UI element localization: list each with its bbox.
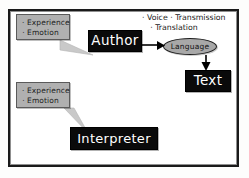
arrow-language-to-text [202,55,211,71]
diagram-canvas: · Voice · Transmission · Translation · E… [0,0,249,178]
arrow-author-to-language [142,41,165,50]
arrows-layer [0,0,249,178]
